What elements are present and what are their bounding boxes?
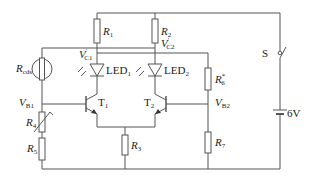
- label-battery: 6V: [287, 107, 301, 119]
- label-rcds: Rcds: [15, 62, 32, 76]
- circuit-diagram: R1 R2 R3 R4 R5 R*6 R7 Rcds LED1 LED2 T1 …: [0, 0, 313, 183]
- transistor-t2: [155, 94, 166, 127]
- label-vc1: V′C1: [79, 47, 93, 62]
- label-led2: LED2: [164, 64, 189, 78]
- label-t1: T1: [98, 96, 109, 110]
- label-vb2: VB2: [215, 96, 230, 110]
- label-vc2: V′C2: [161, 36, 175, 51]
- resistor-r2: [152, 19, 158, 43]
- resistor-r7: [205, 132, 211, 153]
- led-2: [136, 64, 162, 76]
- resistor-r1: [94, 19, 100, 43]
- label-led1: LED1: [106, 64, 131, 78]
- label-r5: R5: [26, 142, 38, 156]
- photoresistor-rcds: [32, 58, 52, 80]
- battery-6v: [273, 110, 287, 169]
- switch-s: [278, 47, 286, 110]
- label-r4: R4: [25, 116, 37, 130]
- label-t2: T2: [144, 96, 155, 110]
- transistor-t1: [86, 94, 97, 127]
- resistor-r6: [205, 68, 211, 90]
- led-1: [78, 64, 104, 76]
- label-vb1: VB1: [19, 96, 34, 110]
- label-s: S: [262, 47, 268, 59]
- label-r1: R1: [102, 25, 114, 39]
- resistor-r5: [39, 138, 45, 160]
- label-r6: R*6: [214, 72, 226, 87]
- label-r7: R7: [214, 136, 226, 150]
- label-r3: R3: [130, 139, 142, 153]
- resistor-r3: [122, 135, 128, 155]
